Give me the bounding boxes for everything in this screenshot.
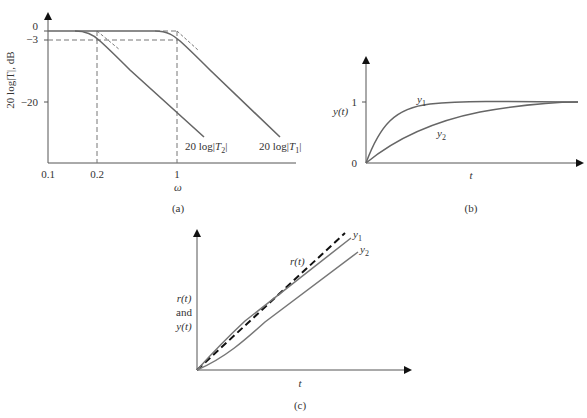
panel-a-ytick-minus3: −3	[26, 33, 38, 45]
panel-a: 0 −3 −20 0.1 0.2 1 ω 20 log|T|, dB 20 lo…	[4, 16, 301, 215]
panel-b-ytick-0: 0	[352, 157, 358, 169]
panel-c-ylabel-line1: r(t)	[177, 292, 192, 305]
y2-step-curve	[366, 102, 578, 163]
t1-label: 20 log|T1|	[259, 140, 301, 155]
panel-a-ytick-minus20: −20	[21, 96, 39, 108]
t2-label: 20 log|T2|	[185, 140, 227, 155]
panel-a-xtick-1: 1	[174, 168, 180, 180]
panel-b-ytick-1: 1	[352, 96, 358, 108]
y2-ramp-curve	[197, 252, 358, 370]
panel-b-caption: (b)	[465, 202, 478, 215]
panel-a-xlabel: ω	[174, 181, 182, 193]
r-label: r(t)	[290, 255, 305, 268]
panel-b: 1 0 y(t) t y1 y2 (b)	[332, 60, 580, 215]
panel-b-ylabel: y(t)	[332, 105, 349, 118]
panel-a-xtick-0.2: 0.2	[90, 168, 104, 180]
y1-step-curve	[366, 101, 578, 163]
panel-a-xtick-0.1: 0.1	[41, 168, 55, 180]
panel-a-caption: (a)	[172, 202, 185, 215]
y2-ramp-label: y2	[359, 243, 369, 258]
panel-a-ytick-0: 0	[33, 20, 39, 32]
panel-b-xlabel: t	[469, 169, 473, 181]
panel-a-ylabel: 20 log|T|, dB	[4, 51, 16, 108]
y2-label: y2	[436, 127, 446, 142]
panel-c-ylabel-line3: y(t)	[175, 320, 192, 333]
panel-c-ylabel-line2: and	[176, 306, 192, 318]
panel-c-caption: (c)	[294, 399, 307, 412]
panel-c: r(t) y1 y2 r(t) and y(t) t (c)	[175, 228, 408, 412]
y1-ramp-curve	[197, 238, 351, 370]
t2-curve	[48, 31, 204, 137]
panel-c-xlabel: t	[298, 377, 302, 389]
y1-ramp-label: y1	[352, 228, 362, 243]
